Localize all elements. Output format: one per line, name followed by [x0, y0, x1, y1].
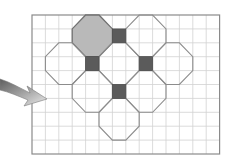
sq-4-square	[112, 85, 125, 99]
sq-1-square	[112, 29, 125, 43]
sq-2-square	[86, 57, 99, 71]
tiling-diagram	[0, 0, 228, 160]
sq-3-square	[139, 57, 152, 71]
diagram-canvas	[0, 0, 228, 160]
